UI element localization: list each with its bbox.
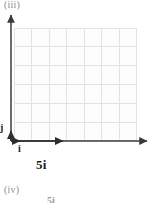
part-label-iv: (iv): [4, 184, 19, 195]
y-unit-vector-label: j: [0, 122, 3, 133]
diagram-canvas: [0, 0, 152, 160]
vector-diagram: [0, 0, 152, 160]
figure-caption-5i: 5i: [36, 157, 47, 173]
x-unit-vector-label: i: [18, 143, 21, 154]
figure-page: (iii): [0, 0, 152, 203]
next-figure-fragment: 5i: [47, 196, 69, 203]
